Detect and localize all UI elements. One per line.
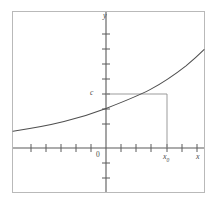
graph-canvas xyxy=(0,0,216,204)
x-axis-label: x xyxy=(196,153,200,161)
exponential-curve xyxy=(13,50,204,132)
x-zero-label: x0 xyxy=(163,153,169,163)
level-c-label: c xyxy=(90,89,93,97)
y-axis-label: y xyxy=(103,12,107,20)
origin-label: 0 xyxy=(96,151,100,159)
x-zero-subscript: 0 xyxy=(167,157,170,163)
exponential-graph-figure: y x c 0 x0 xyxy=(0,0,216,204)
